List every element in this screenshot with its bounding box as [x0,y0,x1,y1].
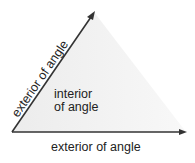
diagram-svg: exterior of angle interior of angle exte… [0,0,195,163]
interior-label-line1: interior [54,87,92,101]
angle-diagram: exterior of angle interior of angle exte… [0,0,195,163]
interior-label-line2: of angle [54,100,99,114]
lower-exterior-label: exterior of angle [51,140,141,154]
